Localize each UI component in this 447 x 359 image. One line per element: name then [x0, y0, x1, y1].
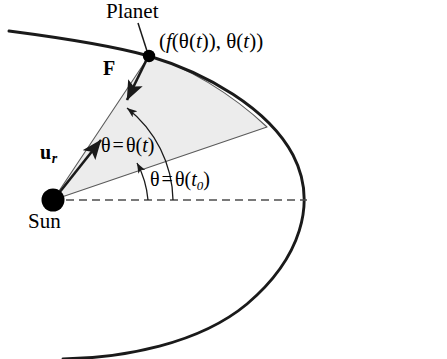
theta-t-equals: =	[111, 134, 126, 156]
planet-leader-line	[138, 23, 147, 51]
planet-coordinate-label: (f(θ(t)), θ(t))	[159, 31, 263, 52]
planet-dot	[143, 50, 155, 62]
coord-open-paren-2: (	[172, 29, 179, 53]
sun-label: Sun	[28, 211, 61, 232]
theta-t-close-paren: )	[148, 134, 155, 156]
coord-theta-1: θ	[179, 29, 189, 53]
coord-open-paren-3: (	[189, 29, 196, 53]
ur-base: u	[40, 141, 51, 163]
coord-open-paren: (	[159, 29, 166, 53]
planet-label: Planet	[106, 1, 159, 22]
theta-t0-equals: =	[160, 168, 175, 190]
coord-comma: ,	[216, 29, 221, 53]
diagram-canvas	[0, 0, 447, 359]
theta-t-label: θ=θ(t)	[101, 135, 154, 155]
theta-t0-symbol: θ	[150, 168, 160, 190]
ur-subscript: r	[52, 151, 57, 166]
theta-t0-close-paren: )	[203, 168, 210, 190]
unit-radial-vector-label: ur	[40, 142, 57, 166]
coord-close-paren: )	[256, 29, 263, 53]
theta-t0-label: θ=θ(t0)	[150, 169, 210, 192]
coord-close-paren-3: )	[202, 29, 209, 53]
theta-t-symbol: θ	[101, 134, 111, 156]
coord-theta-2: θ	[226, 29, 236, 53]
coord-close-paren-2: )	[209, 29, 216, 53]
orbit-diagram-figure: Planet Sun (f(θ(t)), θ(t)) F ur θ=θ(t) θ…	[0, 0, 447, 359]
force-vector-label: F	[103, 58, 115, 78]
